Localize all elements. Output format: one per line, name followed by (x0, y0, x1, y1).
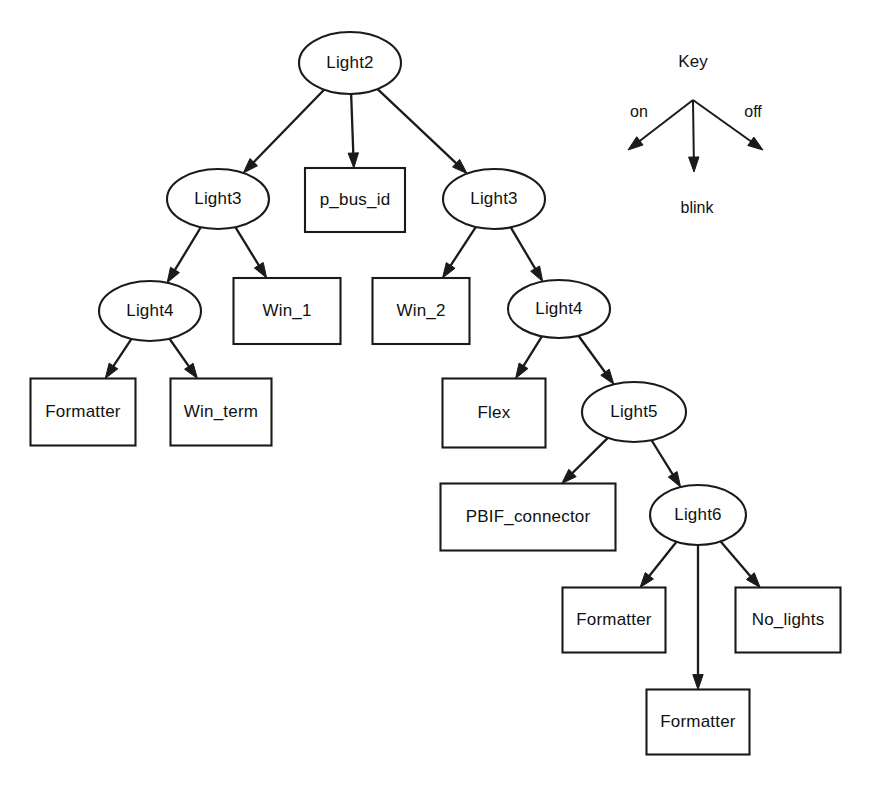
node-label: Light4 (126, 301, 174, 320)
node-light4[interactable]: Light4 (99, 281, 201, 341)
node-label: Formatter (45, 402, 121, 421)
edge-on (167, 227, 201, 282)
node-label: Win_term (184, 402, 258, 421)
node-label: Light3 (194, 189, 242, 208)
node-label: Light2 (326, 53, 374, 72)
edge-on (516, 336, 542, 378)
node-light4[interactable]: Light4 (508, 280, 610, 338)
edge-blink (693, 545, 703, 690)
edge-on (243, 90, 324, 173)
edge-off (579, 336, 614, 385)
node-light3[interactable]: Light3 (167, 169, 269, 229)
state-transition-tree: Light2Light3p_bus_idLight3Light4Win_1Win… (0, 0, 870, 789)
node-label: Formatter (660, 712, 736, 731)
node-label: Flex (478, 403, 511, 422)
node-light3[interactable]: Light3 (443, 169, 545, 229)
node-label: No_lights (752, 610, 825, 629)
node-label: Light3 (470, 189, 518, 208)
node-light5[interactable]: Light5 (582, 382, 686, 442)
node-label: Light6 (674, 505, 722, 524)
key-title: Key (678, 52, 708, 71)
edge-on (562, 438, 608, 484)
key-branch-on: on (628, 100, 693, 150)
node-label: Formatter (576, 610, 652, 629)
edge-on (640, 542, 677, 588)
node-p-bus-id[interactable]: p_bus_id (305, 168, 405, 232)
diagram-canvas: Light2Light3p_bus_idLight3Light4Win_1Win… (0, 0, 870, 789)
edge-off (721, 541, 760, 587)
node-label: Win_1 (262, 301, 311, 320)
key-label-blink: blink (681, 199, 715, 216)
node-pbif-connector[interactable]: PBIF_connector (441, 484, 616, 551)
node-win-1[interactable]: Win_1 (234, 278, 341, 344)
edge-blink (348, 94, 358, 168)
node-win-2[interactable]: Win_2 (373, 278, 470, 344)
key-branch-blink: blink (681, 100, 715, 216)
key-branch-off: off (693, 100, 763, 150)
node-light6[interactable]: Light6 (650, 485, 746, 545)
node-label: PBIF_connector (466, 507, 591, 526)
node-label: p_bus_id (320, 190, 391, 209)
node-light2[interactable]: Light2 (299, 32, 401, 94)
node-label: Light4 (535, 299, 583, 318)
node-flex[interactable]: Flex (443, 379, 546, 448)
node-no-lights[interactable]: No_lights (736, 588, 841, 653)
key-legend: Keyonblinkoff (628, 52, 763, 216)
node-label: Light5 (610, 402, 658, 421)
edge-off (235, 227, 266, 278)
key-label-off: off (744, 103, 762, 120)
node-formatter[interactable]: Formatter (647, 690, 750, 755)
edge-on (105, 339, 131, 379)
edge-off (511, 227, 543, 281)
node-win-term[interactable]: Win_term (171, 379, 272, 446)
edge-off (378, 89, 467, 173)
node-formatter[interactable]: Formatter (31, 379, 136, 446)
edge-off (652, 440, 681, 487)
node-label: Win_2 (396, 301, 445, 320)
nodes-layer: Light2Light3p_bus_idLight3Light4Win_1Win… (31, 32, 841, 755)
edge-off (169, 339, 197, 379)
edge-on (443, 227, 476, 278)
key-label-on: on (630, 103, 648, 120)
node-formatter[interactable]: Formatter (563, 588, 666, 653)
